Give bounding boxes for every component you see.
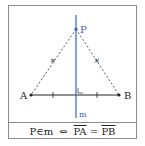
svg-text:✕: ✕ [94,57,100,65]
equals-sign: = [90,126,98,137]
label-p: P [80,24,87,35]
label-m: m [79,110,87,119]
svg-text:✕: ✕ [50,57,56,65]
right-angle-mark [78,88,83,93]
segment-pb-label: PB [101,126,115,137]
equivalence-arrow: ⇔ [59,126,67,137]
caption-left: P∈m [30,126,54,137]
caption: P∈m ⇔ PA = PB [8,122,137,139]
segment-pa-label: PA [74,126,87,137]
label-a: A [19,90,28,101]
label-b: B [124,90,131,101]
